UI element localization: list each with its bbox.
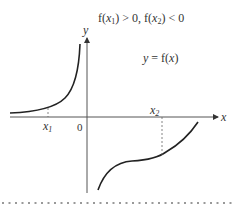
right-curve xyxy=(98,122,198,190)
y-axis-label: y xyxy=(82,23,89,37)
origin-label: 0 xyxy=(77,121,83,133)
caption: f(x1) > 0, f(x2) < 0 xyxy=(98,11,184,26)
function-diagram: f(x1) > 0, f(x2) < 0 y = f(x) y x 0 x1 x… xyxy=(0,0,233,209)
x-axis-label: x xyxy=(220,110,227,124)
x1-label: x1 xyxy=(42,119,52,134)
x2-label: x2 xyxy=(149,103,159,118)
left-curve xyxy=(10,44,80,113)
function-label: y = f(x) xyxy=(142,51,178,65)
